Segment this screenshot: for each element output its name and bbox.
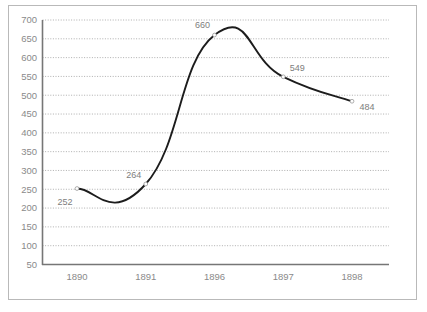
y-axis-tick-label: 700 <box>21 14 37 25</box>
y-axis-tick-label: 350 <box>21 146 37 157</box>
data-point-label: 549 <box>290 63 305 73</box>
data-point-label: 264 <box>126 170 141 180</box>
data-line-series <box>77 27 352 202</box>
data-point-label: 484 <box>359 102 374 112</box>
data-point-labels: 252264660549484 <box>57 20 374 206</box>
data-point-marker <box>281 75 285 79</box>
x-axis-tick-labels: 18901891189618971898 <box>66 271 362 282</box>
x-axis-tick-label: 1891 <box>135 271 156 282</box>
data-point-label: 252 <box>57 197 72 207</box>
data-point-markers <box>75 33 354 190</box>
data-point-marker <box>213 33 217 37</box>
gridlines <box>43 20 390 265</box>
data-point-marker <box>144 182 148 186</box>
y-axis-tick-label: 50 <box>26 259 37 270</box>
data-point-marker <box>75 187 79 191</box>
x-axis-tick-label: 1898 <box>341 271 362 282</box>
y-axis-tick-label: 450 <box>21 108 37 119</box>
y-axis-tick-label: 650 <box>21 33 37 44</box>
y-axis-tick-label: 500 <box>21 90 37 101</box>
data-point-label: 660 <box>195 20 210 30</box>
line-chart: 7006506005505004504003503002502001501005… <box>0 0 427 312</box>
y-axis-tick-label: 100 <box>21 240 37 251</box>
x-axis-tick-label: 1896 <box>204 271 225 282</box>
y-axis-tick-label: 300 <box>21 165 37 176</box>
y-axis-tick-label: 600 <box>21 52 37 63</box>
x-axis-tick-label: 1890 <box>66 271 87 282</box>
y-axis-tick-label: 150 <box>21 221 37 232</box>
data-point-marker <box>350 99 354 103</box>
y-axis-tick-label: 200 <box>21 202 37 213</box>
y-axis-tick-labels: 7006506005505004504003503002502001501005… <box>21 14 37 270</box>
y-axis-tick-label: 400 <box>21 127 37 138</box>
x-axis-tick-label: 1897 <box>273 271 294 282</box>
y-axis-tick-label: 250 <box>21 184 37 195</box>
y-axis-tick-label: 550 <box>21 71 37 82</box>
